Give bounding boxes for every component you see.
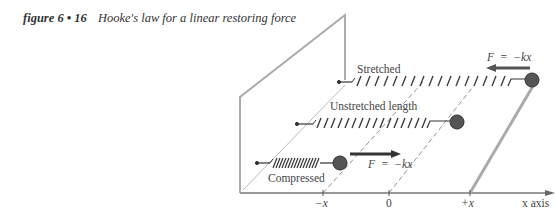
floor-right-edge (470, 86, 533, 193)
stretched-label: Stretched (357, 63, 401, 75)
unstretched-mass (450, 115, 464, 129)
figure: figure 6 • 16 Hooke's law for a linear r… (0, 0, 555, 208)
tick-zero: 0 (386, 197, 392, 208)
dashed-guides (323, 82, 472, 193)
right-arrow-icon (391, 150, 401, 158)
left-arrow-icon (486, 64, 496, 72)
stretched-spring (337, 76, 528, 86)
unstretched-spring (295, 118, 450, 128)
tick-pos-x: +x (461, 197, 475, 208)
unstretched-label: Unstretched length (330, 100, 417, 113)
compressed-mass (333, 156, 347, 170)
hookes-law-diagram: Stretched F = −kx Unstretched length (0, 0, 555, 208)
x-axis-label: x axis (522, 197, 550, 208)
compressed-label: Compressed (268, 172, 325, 185)
tick-neg-x: −x (315, 197, 329, 208)
stretched-force-label: F = −kx (486, 51, 532, 63)
compressed-force-label: F = −kx (367, 158, 413, 170)
x-axis-arrow-icon (545, 190, 555, 196)
stretched-mass (525, 73, 539, 87)
compressed-spring (255, 158, 334, 168)
